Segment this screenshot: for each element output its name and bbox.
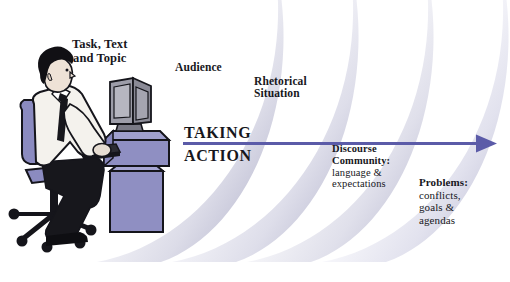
label-audience: Audience (175, 61, 222, 73)
computer-monitor (110, 78, 151, 131)
label-discourse-community: Discourse Community:language & expectati… (332, 143, 390, 190)
label-problems: Problems:conflicts, goals & agendas (419, 176, 468, 226)
taking-action-line1: TAKING (184, 124, 251, 141)
person-torso (33, 86, 111, 166)
diagram-canvas: Task, Text and Topic Audience Rhetorical… (0, 0, 510, 282)
problems-head: Problems: (419, 176, 468, 188)
label-rhetorical-situation: Rhetorical Situation (254, 75, 307, 100)
taking-action-line2: ACTION (184, 147, 252, 164)
person-at-computer-illustration (9, 46, 170, 252)
discourse-community-head: Discourse Community: (332, 143, 390, 166)
label-taking-action: TAKINGACTION (184, 121, 252, 167)
problems-sub: conflicts, goals & agendas (419, 189, 461, 226)
discourse-community-sub: language & expectations (332, 167, 386, 190)
person-head (38, 46, 75, 92)
desk-pedestal (110, 166, 163, 232)
label-task-text-topic: Task, Text and Topic (72, 38, 127, 65)
